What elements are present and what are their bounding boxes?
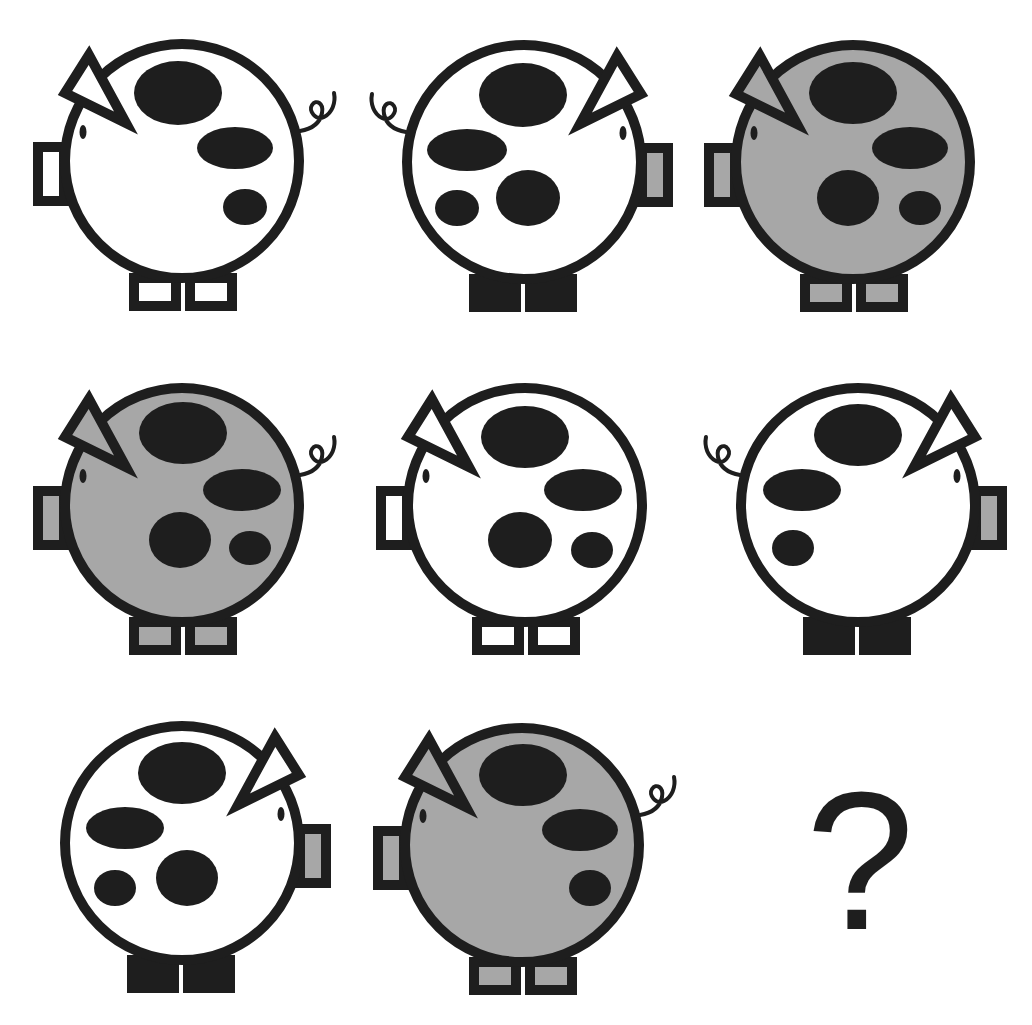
eye (278, 807, 285, 821)
spot (223, 189, 267, 225)
pig-cell-r1-c0 (38, 388, 335, 650)
spot (817, 170, 879, 226)
pig-cell-r0-c0 (38, 44, 335, 306)
spot (809, 62, 897, 124)
right-foot (190, 622, 232, 650)
spot (481, 406, 569, 468)
pig-cell-r1-c2 (705, 388, 1002, 650)
spot (763, 469, 841, 511)
right-foot (474, 279, 516, 307)
spot (139, 402, 227, 464)
spot (427, 129, 507, 171)
spot (149, 512, 211, 568)
right-foot (132, 960, 174, 988)
spot (488, 512, 552, 568)
right-foot (861, 279, 903, 307)
spot (229, 531, 271, 565)
eye (423, 469, 430, 483)
curly-tail-icon (300, 93, 335, 131)
pig-cell-r0-c1 (371, 45, 668, 307)
pig-cell-r1-c1 (381, 388, 642, 650)
eye (420, 809, 427, 823)
right-foot (190, 278, 232, 306)
spot (872, 127, 948, 169)
eye (80, 125, 87, 139)
spot (571, 532, 613, 568)
right-foot (808, 622, 850, 650)
spot (197, 127, 273, 169)
spot (814, 404, 902, 466)
spot (569, 870, 611, 906)
spot (479, 744, 567, 806)
snout (381, 491, 407, 545)
spot (86, 807, 164, 849)
curly-tail-icon (705, 437, 740, 475)
eye (80, 469, 87, 483)
eye (954, 469, 961, 483)
snout (642, 148, 668, 202)
right-foot (533, 622, 575, 650)
spot (94, 870, 136, 906)
spot (542, 809, 618, 851)
missing-cell-question-mark: ? (800, 762, 920, 962)
curly-tail-icon (640, 777, 675, 815)
eye (620, 126, 627, 140)
curly-tail-icon (371, 94, 406, 132)
pig-cell-r0-c2 (709, 45, 970, 307)
snout (38, 491, 64, 545)
spot (134, 61, 222, 125)
snout (38, 147, 64, 201)
snout (709, 148, 735, 202)
spot (479, 63, 567, 127)
snout (976, 491, 1002, 545)
spot (203, 469, 281, 511)
spot (138, 742, 226, 804)
snout (300, 829, 326, 883)
eye (751, 126, 758, 140)
right-foot (530, 962, 572, 990)
spot (156, 850, 218, 906)
pig-cell-r2-c0 (65, 726, 326, 988)
spot (899, 191, 941, 225)
curly-tail-icon (300, 437, 335, 475)
spot (544, 469, 622, 511)
spot (772, 530, 814, 566)
spot (496, 170, 560, 226)
pig-cell-r2-c1 (378, 728, 675, 990)
snout (378, 831, 404, 885)
spot (435, 190, 479, 226)
